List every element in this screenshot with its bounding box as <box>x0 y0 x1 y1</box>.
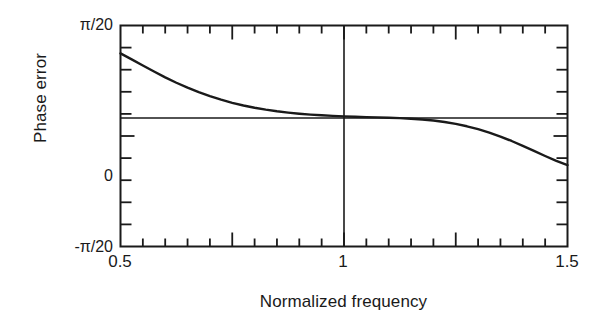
phase-error-chart: Phase error Normalized frequency π/20 0 … <box>0 0 608 334</box>
y-axis-label: Phase error <box>31 13 51 183</box>
x-tick-label-right: 1.5 <box>549 252 585 272</box>
x-tick-label-left: 0.5 <box>102 252 138 272</box>
y-tick-label-zero: 0 <box>104 167 113 185</box>
y-tick-label-top: π/20 <box>80 16 113 34</box>
plot-canvas <box>0 0 608 334</box>
x-tick-label-mid: 1 <box>325 252 361 272</box>
x-axis-label: Normalized frequency <box>120 292 567 312</box>
